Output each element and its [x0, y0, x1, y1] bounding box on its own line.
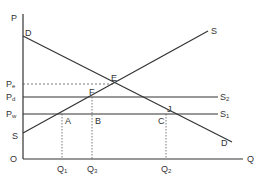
- y-axis-label: P: [11, 13, 17, 23]
- svg-text:1: 1: [64, 168, 68, 174]
- s2-label: S 2: [220, 92, 230, 102]
- svg-text:d: d: [12, 96, 15, 102]
- x-axis-label: Q: [247, 154, 254, 164]
- q2-label: Q 2: [161, 164, 172, 174]
- svg-text:2: 2: [168, 168, 172, 174]
- q1-label: Q 1: [57, 164, 68, 174]
- point-c-label: C: [158, 116, 165, 126]
- svg-text:w: w: [11, 113, 17, 119]
- supply-demand-diagram: P Q O D D S S S 2 S 1 P e P d P w Q 1 Q …: [0, 0, 261, 179]
- pd-label: P d: [6, 92, 15, 102]
- origin-label: O: [10, 154, 17, 164]
- supply-label-bottom: S: [12, 131, 18, 141]
- point-f-label: F: [89, 87, 95, 97]
- demand-curve: [23, 36, 232, 142]
- pw-label: P w: [6, 109, 17, 119]
- pe-label: P e: [6, 79, 16, 89]
- svg-text:Q: Q: [161, 164, 168, 174]
- demand-label-bottom: D: [221, 138, 228, 148]
- svg-text:e: e: [12, 83, 16, 89]
- svg-text:Q: Q: [87, 164, 94, 174]
- supply-label-top: S: [211, 26, 217, 36]
- s1-label: S 1: [220, 109, 230, 119]
- svg-text:1: 1: [226, 113, 230, 119]
- q3-label: Q 3: [87, 164, 98, 174]
- svg-text:Q: Q: [57, 164, 64, 174]
- point-j-label: J: [167, 104, 172, 114]
- svg-text:3: 3: [94, 168, 98, 174]
- point-b-label: B: [95, 116, 101, 126]
- demand-label-top: D: [25, 28, 32, 38]
- point-a-label: A: [65, 116, 71, 126]
- point-e-label: E: [111, 73, 117, 83]
- svg-text:2: 2: [226, 96, 230, 102]
